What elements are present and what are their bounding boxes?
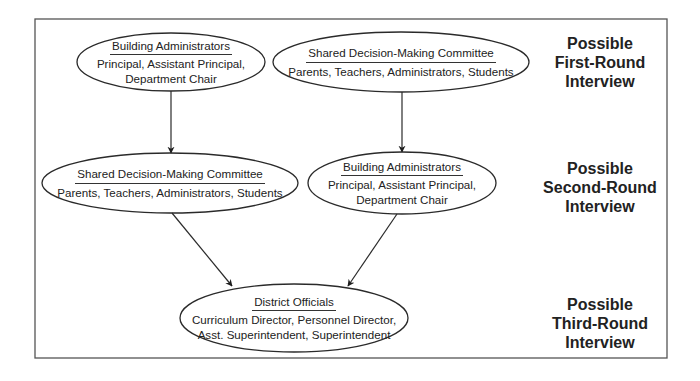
node-members-line: Parents, Teachers, Administrators, Stude…	[273, 65, 529, 80]
node-title: District Officials	[252, 295, 336, 312]
node-r1-building-admins: Building Administrators Principal, Assis…	[77, 39, 265, 87]
round-label-line: Interview	[525, 333, 675, 352]
arrow-icon	[172, 213, 232, 286]
round-label-line: Interview	[525, 197, 675, 216]
round-label-line: Possible	[525, 159, 675, 178]
node-r1-shared-committee: Shared Decision-Making Committee Parents…	[273, 46, 529, 79]
node-title: Building Administrators	[341, 160, 463, 177]
round-label-line: Interview	[525, 72, 675, 91]
node-members-line: Department Chair	[77, 72, 265, 87]
round-label-first: Possible First-Round Interview	[525, 34, 675, 91]
round-label-line: Third-Round	[525, 314, 675, 333]
node-members-line: Asst. Superintendent, Superintendent	[180, 328, 408, 343]
node-members-line: Curriculum Director, Personnel Director,	[180, 313, 408, 328]
node-members-line: Department Chair	[308, 193, 496, 208]
round-label-line: Possible	[525, 295, 675, 314]
node-members-line: Principal, Assistant Principal,	[77, 57, 265, 72]
interview-process-diagram: Building Administrators Principal, Assis…	[0, 0, 700, 381]
node-members-line: Principal, Assistant Principal,	[308, 178, 496, 193]
round-label-line: Second-Round	[525, 178, 675, 197]
node-title: Building Administrators	[110, 39, 232, 56]
node-r2-building-admins: Building Administrators Principal, Assis…	[308, 160, 496, 208]
round-label-line: First-Round	[525, 53, 675, 72]
round-label-third: Possible Third-Round Interview	[525, 295, 675, 352]
node-r3-district-officials: District Officials Curriculum Director, …	[180, 295, 408, 343]
node-members-line: Parents, Teachers, Administrators, Stude…	[42, 186, 298, 201]
node-title: Shared Decision-Making Committee	[306, 46, 496, 63]
node-r2-shared-committee: Shared Decision-Making Committee Parents…	[42, 167, 298, 200]
round-label-line: Possible	[525, 34, 675, 53]
node-title: Shared Decision-Making Committee	[75, 167, 265, 184]
arrow-icon	[348, 214, 397, 286]
round-label-second: Possible Second-Round Interview	[525, 159, 675, 216]
